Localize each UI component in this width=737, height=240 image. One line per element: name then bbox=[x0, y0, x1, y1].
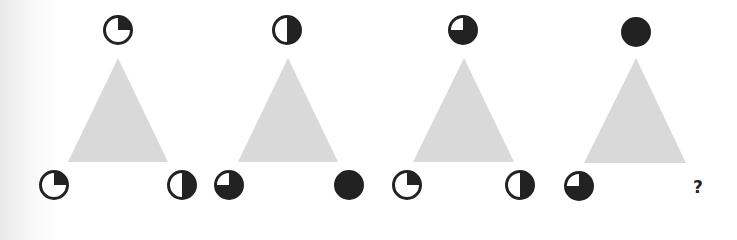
puzzle-canvas: ? bbox=[0, 0, 737, 215]
circle-half-top bbox=[274, 17, 301, 44]
triangle bbox=[68, 58, 168, 162]
circle-quarter-bottom-left bbox=[394, 172, 421, 199]
circle-full-bottom-right bbox=[336, 172, 363, 199]
panel-2 bbox=[216, 17, 363, 199]
circle-three-quarter-top bbox=[450, 17, 477, 44]
circle-three-quarter-bottom-left bbox=[216, 172, 243, 199]
triangle bbox=[238, 58, 338, 162]
circle-half-bottom-right bbox=[169, 172, 196, 199]
panel-4: ? bbox=[566, 19, 703, 200]
circle-quarter-top bbox=[105, 17, 132, 44]
panel-1 bbox=[41, 17, 196, 199]
triangle bbox=[413, 58, 514, 162]
question-mark: ? bbox=[693, 177, 703, 197]
circle-three-quarter-bottom-left bbox=[566, 173, 593, 200]
panel-3 bbox=[394, 17, 534, 199]
triangle bbox=[584, 58, 686, 163]
circle-full-top bbox=[623, 19, 650, 46]
circle-half-bottom-right bbox=[507, 172, 534, 199]
circle-quarter-bottom-left bbox=[41, 172, 68, 199]
